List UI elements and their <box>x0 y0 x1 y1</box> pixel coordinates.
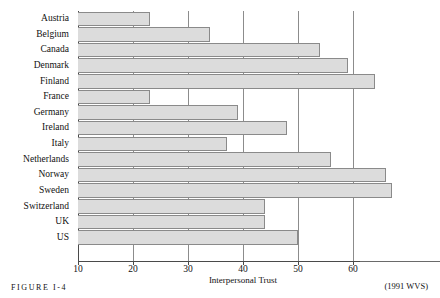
bar <box>78 58 348 73</box>
y-axis-label: Austria <box>0 11 74 27</box>
x-axis-tick-label: 60 <box>348 264 358 274</box>
bar-row <box>78 89 438 105</box>
y-axis-label: UK <box>0 214 74 230</box>
bar-row <box>78 120 438 136</box>
y-axis-label: Denmark <box>0 58 74 74</box>
x-axis-tick-label: 30 <box>183 264 193 274</box>
bar-row <box>78 183 438 199</box>
y-axis-label: France <box>0 89 74 105</box>
bar <box>78 168 386 183</box>
figure-caption: FIGURE I-4 <box>11 283 67 292</box>
bar <box>78 74 375 89</box>
x-axis-line <box>78 261 360 262</box>
bar-row <box>78 74 438 90</box>
y-axis-label: Sweden <box>0 183 74 199</box>
y-axis-label: US <box>0 230 74 246</box>
bar <box>78 152 331 167</box>
bar <box>78 90 150 105</box>
bar-row <box>78 167 438 183</box>
bar <box>78 121 287 136</box>
x-axis-tick-label: 40 <box>238 264 248 274</box>
x-axis-tick-label: 10 <box>73 264 83 274</box>
bar-rows <box>78 11 438 261</box>
bar-row <box>78 199 438 215</box>
bar <box>78 183 392 198</box>
x-axis-extension <box>360 261 440 262</box>
bar-row <box>78 230 438 246</box>
bar <box>78 105 238 120</box>
y-axis-label: Belgium <box>0 27 74 43</box>
bar-row <box>78 11 438 27</box>
y-axis-labels: AustriaBelgiumCanadaDenmarkFinlandFrance… <box>0 11 74 261</box>
source-note: (1991 WVS) <box>384 281 428 291</box>
y-axis-label: Netherlands <box>0 152 74 168</box>
bar-row <box>78 152 438 168</box>
y-axis-label: Canada <box>0 42 74 58</box>
bar <box>78 12 150 27</box>
y-axis-label: Switzerland <box>0 199 74 215</box>
bar <box>78 215 265 230</box>
plot-area <box>78 11 438 261</box>
bar <box>78 27 210 42</box>
x-axis-tick-label: 50 <box>293 264 303 274</box>
bar <box>78 199 265 214</box>
x-axis-title-text: Interpersonal Trust <box>209 275 277 285</box>
bar-row <box>78 214 438 230</box>
bar <box>78 230 298 245</box>
y-axis-label: Finland <box>0 74 74 90</box>
x-axis-tick-label: 20 <box>128 264 138 274</box>
y-axis-label: Ireland <box>0 120 74 136</box>
bar-row <box>78 42 438 58</box>
bar-row <box>78 105 438 121</box>
y-axis-label: Germany <box>0 105 74 121</box>
y-axis-label: Italy <box>0 136 74 152</box>
bar-row <box>78 58 438 74</box>
bar <box>78 43 320 58</box>
bar <box>78 137 227 152</box>
bar-row <box>78 136 438 152</box>
bar-row <box>78 27 438 43</box>
y-axis-label: Norway <box>0 167 74 183</box>
